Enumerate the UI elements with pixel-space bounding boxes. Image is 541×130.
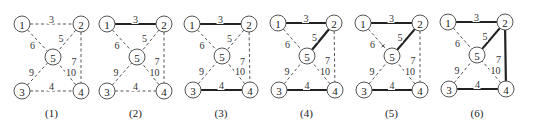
edge-weight-2-5: 5 [227, 33, 232, 44]
edge-weight-3-4: 4 [219, 80, 224, 91]
edge-weight-1-5: 6 [285, 39, 290, 50]
edge-weight-4-5: 10 [66, 67, 76, 78]
node-label-3: 3 [19, 86, 25, 98]
edge-weight-4-5: 10 [320, 66, 330, 77]
edge-weight-1-2: 3 [389, 13, 394, 24]
panel-caption: (3) [215, 107, 228, 120]
edge-weight-1-2: 3 [49, 14, 54, 25]
edge-weight-2-4: 7 [325, 55, 330, 66]
edge-weight-2-5: 5 [398, 32, 403, 43]
edge-weight-1-2: 3 [218, 14, 223, 25]
panel-caption: (4) [300, 107, 313, 120]
node-label-4: 4 [332, 85, 338, 97]
node-label-2: 2 [78, 19, 84, 31]
graph-panel-3: 3657910412345(3) [184, 14, 258, 121]
graph-panel-4: 3657910412345(4) [270, 13, 343, 121]
edge-weight-1-2: 3 [474, 12, 479, 23]
edge-weight-2-5: 5 [142, 33, 147, 44]
edge-weight-4-5: 10 [491, 65, 501, 76]
node-label-5: 5 [474, 50, 480, 62]
node-label-4: 4 [78, 86, 84, 98]
edge-weight-4-5: 10 [150, 67, 160, 78]
edge-2-4-candidate [249, 32, 250, 82]
edge-weight-3-4: 4 [305, 80, 310, 91]
node-label-3: 3 [104, 86, 110, 98]
node-label-5: 5 [50, 52, 56, 64]
node-label-1: 1 [275, 18, 281, 30]
node-label-4: 4 [247, 85, 253, 97]
edge-weight-3-4: 4 [390, 80, 395, 91]
edge-weight-4-5: 10 [235, 66, 245, 77]
node-label-3: 3 [276, 85, 282, 97]
node-label-4: 4 [161, 86, 167, 98]
node-label-1: 1 [19, 19, 25, 31]
edge-weight-3-5: 9 [114, 67, 119, 78]
edge-weight-2-4: 7 [411, 55, 416, 66]
node-label-3: 3 [446, 84, 452, 96]
edge-weight-2-4: 7 [155, 56, 160, 67]
node-label-2: 2 [417, 18, 423, 30]
graph-panel-6: 3657910412345(6) [440, 12, 514, 121]
node-label-4: 4 [417, 85, 423, 97]
panel-caption: (5) [385, 107, 398, 120]
edge-weight-2-4: 7 [496, 54, 501, 65]
node-label-5: 5 [134, 52, 140, 64]
edge-2-4-selected [505, 30, 506, 81]
edge-weight-1-5: 6 [30, 40, 35, 51]
edge-2-4-candidate [334, 31, 335, 82]
node-label-1: 1 [189, 19, 195, 31]
edge-weight-1-5: 6 [115, 40, 120, 51]
edge-weight-3-4: 4 [49, 81, 54, 92]
edge-weight-3-4: 4 [133, 81, 138, 92]
edge-weight-3-5: 9 [370, 66, 375, 77]
node-label-1: 1 [360, 18, 366, 30]
edge-weight-2-5: 5 [312, 32, 317, 43]
node-label-5: 5 [304, 51, 310, 63]
edge-weight-1-5: 6 [370, 39, 375, 50]
kruskal-mst-figure: 3657910412345(1)3657910412345(2)36579104… [0, 0, 541, 130]
node-label-2: 2 [502, 17, 508, 29]
node-label-4: 4 [503, 84, 509, 96]
graph-panel-5: 3657910412345(5) [355, 13, 428, 121]
graph-panel-1: 3657910412345(1) [14, 14, 89, 121]
node-label-3: 3 [361, 85, 367, 97]
panel-caption: (6) [471, 107, 484, 120]
edge-weight-3-4: 4 [475, 79, 480, 90]
graph-panel-2: 3657910412345(2) [99, 14, 172, 121]
panel-caption: (1) [45, 107, 58, 120]
edge-weight-3-5: 9 [199, 66, 204, 77]
node-label-3: 3 [190, 85, 196, 97]
node-label-1: 1 [104, 19, 110, 31]
node-label-5: 5 [219, 51, 225, 63]
edge-weight-3-5: 9 [285, 66, 290, 77]
edge-weight-2-4: 7 [72, 56, 77, 67]
node-label-2: 2 [161, 19, 167, 31]
node-label-2: 2 [246, 19, 252, 31]
edge-weight-1-5: 6 [200, 40, 205, 51]
edge-weight-2-5: 5 [483, 31, 488, 42]
node-label-2: 2 [331, 18, 337, 30]
edge-weight-4-5: 10 [405, 66, 415, 77]
edge-weight-3-5: 9 [455, 65, 460, 76]
edge-weight-2-5: 5 [59, 33, 64, 44]
edge-weight-1-2: 3 [133, 14, 138, 25]
node-label-5: 5 [389, 51, 395, 63]
panel-caption: (2) [129, 107, 142, 120]
edge-weight-1-5: 6 [455, 38, 460, 49]
edge-weight-3-5: 9 [29, 67, 34, 78]
edge-weight-1-2: 3 [304, 13, 309, 24]
node-label-1: 1 [445, 17, 451, 29]
